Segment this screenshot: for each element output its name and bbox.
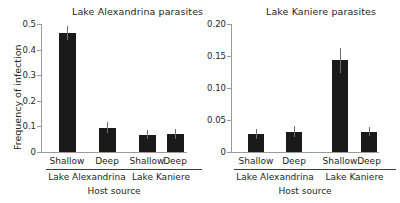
y-tick-label-left-3: 0.3 bbox=[22, 71, 36, 80]
x-axis-title-left: Host source bbox=[41, 186, 187, 196]
y-tick-right-3 bbox=[227, 56, 231, 57]
chart-title-left: Lake Alexandrina parasites bbox=[72, 6, 203, 17]
y-axis-line-right bbox=[231, 24, 232, 153]
error-bar-right-2 bbox=[340, 48, 341, 74]
bar-left-0 bbox=[59, 33, 76, 152]
y-tick-right-4 bbox=[227, 24, 231, 25]
x-category-label-right-1: Deep bbox=[268, 156, 320, 166]
y-tick-left-5 bbox=[37, 24, 41, 25]
group-label-right-1: Lake Kaniere bbox=[305, 172, 400, 182]
y-tick-label-left-0: 0 bbox=[31, 148, 36, 157]
y-tick-label-right-2: 0.10 bbox=[207, 84, 226, 93]
error-bar-left-3 bbox=[175, 129, 176, 139]
group-rule-left-1 bbox=[120, 169, 202, 170]
y-tick-right-2 bbox=[227, 88, 231, 89]
y-tick-left-3 bbox=[37, 75, 41, 76]
chart-panel-left: Lake Alexandrina parasites Frequency of … bbox=[0, 0, 192, 203]
y-tick-left-2 bbox=[37, 101, 41, 102]
x-axis-title-right: Host source bbox=[231, 186, 379, 196]
group-rule-left-0 bbox=[46, 169, 128, 170]
y-tick-label-left-5: 0.5 bbox=[22, 20, 36, 29]
y-tick-label-right-1: 0.05 bbox=[207, 116, 226, 125]
chart-title-right: Lake Kaniere parasites bbox=[266, 6, 376, 17]
plot-area-right: 00.050.100.150.20 bbox=[231, 24, 379, 153]
y-axis-line-left bbox=[41, 24, 42, 153]
y-axis-label-left: Frequency of infection bbox=[12, 44, 23, 150]
y-tick-label-left-1: 0.1 bbox=[22, 122, 36, 131]
y-tick-label-left-2: 0.2 bbox=[22, 97, 36, 106]
x-axis-line-right bbox=[231, 152, 379, 153]
group-rule-right-1 bbox=[314, 169, 396, 170]
y-tick-left-1 bbox=[37, 126, 41, 127]
error-bar-right-3 bbox=[369, 127, 370, 136]
group-rule-right-0 bbox=[234, 169, 316, 170]
y-tick-left-0 bbox=[37, 152, 41, 153]
y-tick-label-right-3: 0.15 bbox=[207, 52, 226, 61]
y-tick-label-left-4: 0.4 bbox=[22, 45, 36, 54]
y-tick-left-4 bbox=[37, 50, 41, 51]
x-category-label-right-3: Deep bbox=[343, 156, 395, 166]
y-tick-label-right-0: 0 bbox=[221, 148, 226, 157]
y-tick-right-0 bbox=[227, 152, 231, 153]
plot-area-left: 00.10.20.30.40.5 bbox=[41, 24, 187, 153]
error-bar-left-1 bbox=[107, 122, 108, 133]
bar-right-2 bbox=[332, 60, 348, 152]
error-bar-left-2 bbox=[147, 130, 148, 139]
error-bar-left-0 bbox=[67, 26, 68, 40]
y-tick-right-1 bbox=[227, 120, 231, 121]
error-bar-right-0 bbox=[256, 129, 257, 139]
chart-panel-right: Lake Kaniere parasites 00.050.100.150.20… bbox=[191, 0, 383, 203]
error-bar-right-1 bbox=[294, 126, 295, 138]
x-axis-line-left bbox=[41, 152, 187, 153]
y-tick-label-right-4: 0.20 bbox=[207, 20, 226, 29]
